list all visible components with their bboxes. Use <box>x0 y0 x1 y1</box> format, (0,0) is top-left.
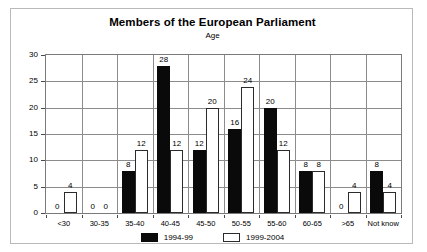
gridline-vertical <box>188 55 189 213</box>
gridline-vertical <box>117 55 118 213</box>
chart-frame: Members of the European Parliament Age 0… <box>10 8 413 244</box>
x-tick-mark <box>224 215 225 218</box>
gridline-vertical <box>330 55 331 213</box>
x-tick-label: 40-45 <box>161 219 180 228</box>
x-tick-mark <box>259 215 260 218</box>
chart-subtitle: Age <box>11 30 414 41</box>
legend-item: 1999-2004 <box>223 233 284 242</box>
bar <box>264 108 277 213</box>
bar <box>170 150 183 213</box>
bar-value-label: 12 <box>137 140 146 148</box>
bar-value-label: 0 <box>104 203 108 211</box>
y-tick-label: 20 <box>29 104 38 112</box>
legend-swatch <box>141 233 158 242</box>
x-tick-label: <30 <box>57 219 70 228</box>
legend-swatch <box>223 233 240 242</box>
bar-value-label: 20 <box>266 98 275 106</box>
bar-value-label: 8 <box>304 161 308 169</box>
x-tick-mark <box>153 215 154 218</box>
bar <box>241 87 254 213</box>
x-tick-mark <box>366 215 367 218</box>
x-tick-mark <box>330 215 331 218</box>
bar-value-label: 4 <box>388 182 392 190</box>
bar-value-label: 0 <box>55 203 59 211</box>
bar <box>64 192 77 213</box>
legend-label: 1999-2004 <box>246 233 284 242</box>
legend-label: 1994-99 <box>164 233 193 242</box>
bar-value-label: 12 <box>279 140 288 148</box>
x-tick-label: 35-40 <box>125 219 144 228</box>
bar-value-label: 16 <box>230 119 239 127</box>
bar-value-label: 4 <box>68 182 72 190</box>
gridline-vertical <box>224 55 225 213</box>
y-tick-label: 5 <box>34 183 38 191</box>
bar-value-label: 20 <box>208 98 217 106</box>
x-tick-label: 45-50 <box>196 219 215 228</box>
gridline-vertical <box>259 55 260 213</box>
x-tick-mark <box>46 215 47 218</box>
bar-value-label: 8 <box>126 161 130 169</box>
y-tick-label: 10 <box>29 156 38 164</box>
bar-value-label: 28 <box>159 56 168 64</box>
chart-title: Members of the European Parliament <box>11 15 414 29</box>
x-tick-mark <box>401 215 402 218</box>
bar <box>370 171 383 213</box>
bar <box>157 66 170 213</box>
y-axis: 051015202530 <box>11 54 45 216</box>
x-tick-mark <box>295 215 296 218</box>
bar-value-label: 0 <box>339 203 343 211</box>
x-tick-label: >65 <box>341 219 354 228</box>
x-axis: <3030-3535-4040-4545-5050-5555-6060-65>6… <box>45 215 402 231</box>
plot-area: 00828121620808401212202412844 <box>45 54 402 214</box>
y-tick-label: 25 <box>29 77 38 85</box>
bar-value-label: 4 <box>352 182 356 190</box>
bar <box>206 108 219 213</box>
x-tick-mark <box>188 215 189 218</box>
bar-value-label: 8 <box>375 161 379 169</box>
bar <box>348 192 361 213</box>
bar <box>277 150 290 213</box>
bar <box>312 171 325 213</box>
x-tick-label: 30-35 <box>90 219 109 228</box>
y-tick-label: 0 <box>34 209 38 217</box>
legend-item: 1994-99 <box>141 233 193 242</box>
gridline-vertical <box>366 55 367 213</box>
bar-value-label: 8 <box>317 161 321 169</box>
bar-value-label: 12 <box>195 140 204 148</box>
y-tick-label: 30 <box>29 51 38 59</box>
bar-value-label: 24 <box>243 77 252 85</box>
bar <box>228 129 241 213</box>
x-tick-mark <box>117 215 118 218</box>
x-tick-label: 60-65 <box>303 219 322 228</box>
x-tick-mark <box>82 215 83 218</box>
gridline-vertical <box>82 55 83 213</box>
bar-value-label: 0 <box>91 203 95 211</box>
chart-legend: 1994-991999-2004 <box>11 233 414 242</box>
bar-value-label: 12 <box>172 140 181 148</box>
x-tick-label: 50-55 <box>232 219 251 228</box>
gridline-vertical <box>153 55 154 213</box>
bar <box>122 171 135 213</box>
bar <box>299 171 312 213</box>
bar <box>193 150 206 213</box>
bar <box>135 150 148 213</box>
x-tick-label: 55-60 <box>267 219 286 228</box>
bar <box>383 192 396 213</box>
gridline-vertical <box>295 55 296 213</box>
x-tick-label: Not know <box>368 219 399 228</box>
title-block: Members of the European Parliament Age <box>11 15 414 41</box>
y-tick-label: 15 <box>29 130 38 138</box>
